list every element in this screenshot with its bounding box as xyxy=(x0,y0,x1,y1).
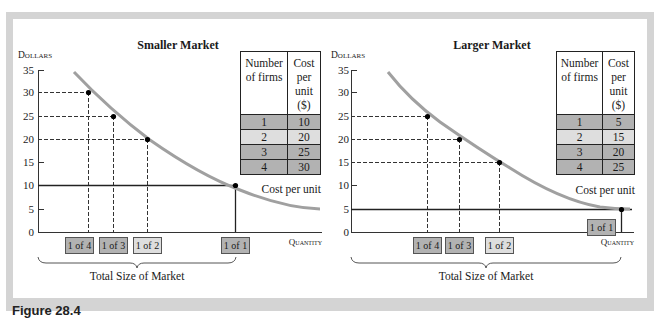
y-tick: 25 xyxy=(23,110,35,122)
y-tick: 15 xyxy=(338,156,350,168)
header-number-of-firms: Number of firms xyxy=(557,52,603,115)
point-1-of-2 xyxy=(497,160,502,165)
cell-cost: 25 xyxy=(603,160,635,175)
y-tick: 20 xyxy=(23,133,35,145)
curve-label: Cost per unit xyxy=(262,183,322,196)
table-row: 430 xyxy=(241,160,321,175)
cell-cost: 20 xyxy=(288,130,321,145)
y-tick: 30 xyxy=(23,86,35,98)
cell-firms: 2 xyxy=(557,130,603,145)
cell-firms: 3 xyxy=(557,145,603,160)
header-cost-per-unit: Cost per unit ($) xyxy=(603,52,635,115)
larger-market-table: Number of firms Cost per unit ($) 15 215… xyxy=(556,51,635,175)
table-row: 320 xyxy=(557,145,635,160)
y-tick: 0 xyxy=(344,226,350,238)
point-1-of-2 xyxy=(145,137,150,142)
curve-label: Cost per unit xyxy=(576,184,636,197)
x-axis-label: Quantity xyxy=(289,237,323,247)
y-tick: 25 xyxy=(338,110,350,122)
y-tick: 20 xyxy=(338,133,350,145)
qbox-1-of-1: 1 of 1 xyxy=(587,219,616,236)
table-row: 15 xyxy=(557,115,635,130)
y-tick: 5 xyxy=(29,203,35,215)
cell-cost: 5 xyxy=(603,115,635,130)
smaller-market-table: Number of firms Cost per unit ($) 110 22… xyxy=(240,51,321,175)
point-1-of-1 xyxy=(619,207,624,212)
point-1-of-4 xyxy=(425,114,430,119)
qbox-1-of-2: 1 of 2 xyxy=(485,237,514,254)
brace xyxy=(351,257,621,268)
point-1-of-3 xyxy=(457,137,462,142)
solid-guides xyxy=(38,185,236,232)
cell-firms: 2 xyxy=(241,130,288,145)
guide-lines xyxy=(351,116,500,232)
cell-firms: 4 xyxy=(557,160,603,175)
table-row: 215 xyxy=(557,130,635,145)
y-tick: 5 xyxy=(344,203,350,215)
cell-firms: 1 xyxy=(557,115,603,130)
y-tick-labels: 35 30 25 20 15 10 5 0 xyxy=(338,64,350,238)
y-tick: 35 xyxy=(338,64,350,76)
brace xyxy=(38,257,236,268)
y-axis-label: Dollars xyxy=(18,50,52,60)
y-tick: 0 xyxy=(29,226,35,238)
header-number-of-firms: Number of firms xyxy=(241,52,288,115)
cell-cost: 15 xyxy=(603,130,635,145)
brace-label: Total Size of Market xyxy=(90,270,185,282)
qbox-1-of-3: 1 of 3 xyxy=(445,237,474,254)
qbox-1-of-3: 1 of 3 xyxy=(99,237,128,254)
cell-cost: 20 xyxy=(603,145,635,160)
point-1-of-4 xyxy=(86,90,91,95)
y-tick-labels: 35 30 25 20 15 10 5 0 xyxy=(23,64,35,238)
header-cost-per-unit: Cost per unit ($) xyxy=(288,52,321,115)
guide-lines xyxy=(38,92,148,232)
cell-firms: 3 xyxy=(241,145,288,160)
qbox-1-of-2: 1 of 2 xyxy=(133,237,162,254)
table-row: 110 xyxy=(241,115,321,130)
qbox-1-of-4: 1 of 4 xyxy=(65,237,94,254)
cell-firms: 1 xyxy=(241,115,288,130)
y-axis-label: Dollars xyxy=(331,50,365,60)
chart-title: Larger Market xyxy=(453,38,530,52)
qbox-1-of-1: 1 of 1 xyxy=(221,237,250,254)
cell-firms: 4 xyxy=(241,160,288,175)
y-tick: 10 xyxy=(23,179,35,191)
x-axis-label: Quantity xyxy=(601,237,635,247)
cell-cost: 25 xyxy=(288,145,321,160)
chart-title: Smaller Market xyxy=(137,38,218,52)
y-tick: 35 xyxy=(23,64,35,76)
table-row: 425 xyxy=(557,160,635,175)
y-tick: 30 xyxy=(338,86,350,98)
table-row: 220 xyxy=(241,130,321,145)
y-tick: 10 xyxy=(338,179,350,191)
table-row: 325 xyxy=(241,145,321,160)
point-1-of-1 xyxy=(233,183,238,188)
cell-cost: 30 xyxy=(288,160,321,175)
point-1-of-3 xyxy=(111,114,116,119)
cell-cost: 10 xyxy=(288,115,321,130)
brace-label: Total Size of Market xyxy=(439,270,534,282)
y-tick: 15 xyxy=(23,156,35,168)
qbox-1-of-4: 1 of 4 xyxy=(413,237,442,254)
